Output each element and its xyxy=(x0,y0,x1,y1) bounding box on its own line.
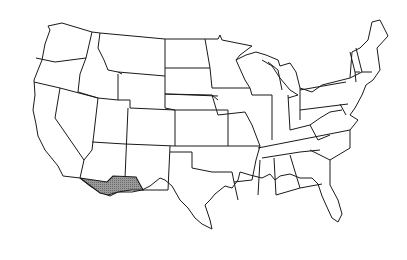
us-map-svg xyxy=(0,0,407,260)
us-map xyxy=(0,0,407,260)
us-outline xyxy=(33,20,388,229)
